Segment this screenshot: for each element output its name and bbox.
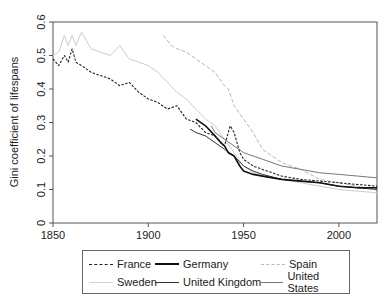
legend-label: United States [287,270,349,294]
y-axis-label: Gini coefficient of lifespans [8,56,20,187]
series-lines [53,32,377,193]
legend-item-france: France [89,257,151,271]
series-germany [196,119,377,188]
series-france [53,49,377,186]
legend-item-spain: Spain [261,257,317,271]
legend-label: United Kingdom [183,276,261,288]
y-tick-label: 0.4 [35,81,47,96]
legend-swatch-sweden [89,282,113,283]
legend-label: Spain [289,258,317,270]
x-tick-label: 1850 [41,229,65,241]
y-tick-label: 0.6 [35,14,47,29]
legend-swatch-germany [155,263,179,265]
y-tick-label: 0.1 [35,182,47,197]
series-sweden [53,32,377,193]
legend-label: France [117,258,151,270]
legend-item-germany: Germany [155,257,228,271]
y-tick-label: 0.3 [35,115,47,130]
y-tick-label: 0.2 [35,148,47,163]
legend-item-sweden: Sweden [89,275,157,289]
axes: 185019001950200000.10.20.30.40.50.6 [35,14,377,241]
x-tick-label: 2000 [327,229,351,241]
legend-swatch-uk [155,282,179,283]
y-tick-label: 0.5 [35,48,47,63]
legend: France Sweden Germany United Kingdom Spa… [82,250,350,294]
legend-item-united-kingdom: United Kingdom [155,275,261,289]
series-united-states [211,126,377,178]
y-tick-label: 0 [35,220,47,226]
x-tick-label: 1950 [231,229,255,241]
legend-swatch-us [261,282,283,283]
legend-swatch-spain [261,264,285,265]
line-chart: 185019001950200000.10.20.30.40.50.6 Gini… [0,0,392,250]
legend-item-united-states: United States [261,275,349,289]
legend-swatch-france [89,264,113,265]
legend-label: Sweden [117,276,157,288]
series-united-kingdom [190,129,377,189]
series-spain [164,35,378,189]
x-tick-label: 1900 [136,229,160,241]
legend-label: Germany [183,258,228,270]
